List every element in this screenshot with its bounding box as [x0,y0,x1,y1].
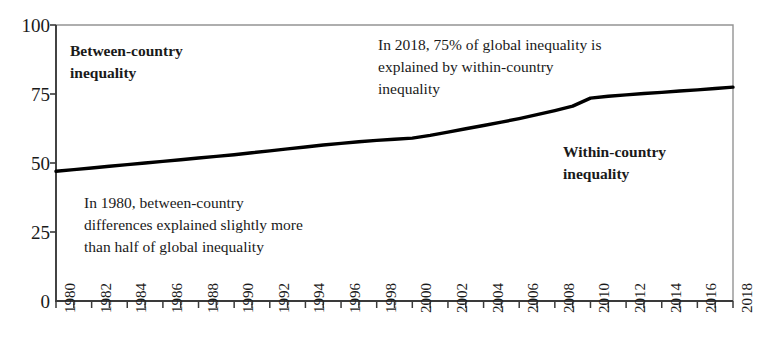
x-tick-label-2016: 2016 [703,283,720,313]
x-tick-label-2012: 2012 [632,283,649,313]
x-tick-label-1982: 1982 [98,283,115,313]
x-tick-label-1994: 1994 [311,283,328,313]
inequality-line-chart: 100 75 50 25 0 1980198219841986198819901… [0,0,760,361]
x-tick-label-2010: 2010 [596,283,613,313]
within-country-label: Within-country inequality [563,141,666,185]
x-tick-label-2014: 2014 [668,283,685,313]
x-tick-label-1998: 1998 [383,283,400,313]
x-tick-label-1990: 1990 [240,283,257,313]
x-tick-label-2000: 2000 [418,283,435,313]
x-tick-label-1992: 1992 [276,283,293,313]
x-tick-label-1988: 1988 [205,283,222,313]
annotation-2018: In 2018, 75% of global inequality is exp… [378,34,601,100]
x-tick-label-1986: 1986 [169,283,186,313]
y-tick-label-0: 0 [4,292,50,311]
annotation-1980: In 1980, between-country differences exp… [84,192,303,258]
between-country-label: Between-country inequality [70,40,183,84]
x-tick-label-1980: 1980 [62,283,79,313]
x-tick-label-2018: 2018 [739,283,756,313]
x-tick-label-2008: 2008 [561,283,578,313]
x-tick-label-1984: 1984 [133,283,150,313]
x-tick-label-2002: 2002 [454,283,471,313]
y-tick-label-50: 50 [4,154,50,173]
y-tick-label-25: 25 [4,223,50,242]
x-tick-label-2004: 2004 [490,283,507,313]
y-tick-label-75: 75 [4,85,50,104]
x-tick-label-1996: 1996 [347,283,364,313]
x-tick-label-2006: 2006 [525,283,542,313]
y-tick-label-100: 100 [4,16,50,35]
